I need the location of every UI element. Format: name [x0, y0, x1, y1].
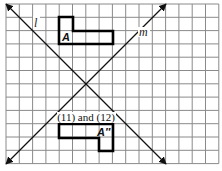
reflection-diagram: l m A A″ (11) and (12)	[0, 0, 222, 171]
figure-a-double-prime-label: A″	[96, 126, 111, 138]
line-m-label: m	[139, 25, 148, 39]
caption: (11) and (12)	[57, 111, 115, 124]
figure-a-label: A	[61, 31, 70, 43]
